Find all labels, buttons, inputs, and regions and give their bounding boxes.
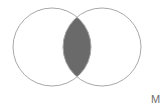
venn-diagram-figure xyxy=(0,0,168,112)
venn-diagram-canvas: M xyxy=(0,0,168,112)
corner-watermark-label: M xyxy=(151,93,160,105)
